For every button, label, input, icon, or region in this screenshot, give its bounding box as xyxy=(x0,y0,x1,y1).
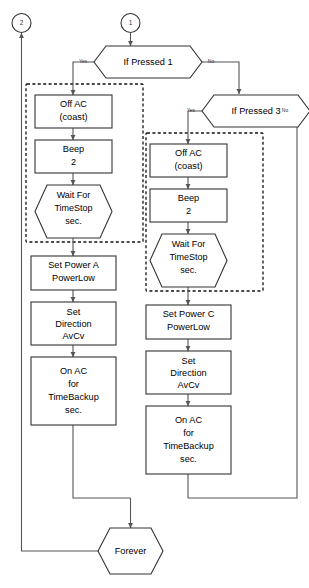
node-forever-label: Forever xyxy=(115,546,147,556)
node-left-off-ac[interactable]: Off AC (coast) xyxy=(35,95,112,128)
node-right-on-ac-line-1: for xyxy=(183,428,194,438)
node-left-set-direction-line-2: AvCv xyxy=(63,331,85,341)
node-left-set-power-line-1: PowerLow xyxy=(52,273,95,283)
node-left-off-ac-line-1: (coast) xyxy=(59,112,87,122)
node-left-on-ac-line-1: for xyxy=(68,379,79,389)
node-right-set-power-line-1: PowerLow xyxy=(167,322,210,332)
node-right-wait-line-2: sec. xyxy=(180,265,197,275)
decision-if-pressed-1-no-label: No xyxy=(208,58,215,64)
node-right-set-direction-line-1: Direction xyxy=(170,368,206,378)
node-left-off-ac-line-0: Off AC xyxy=(60,99,87,109)
decision-if-pressed-3[interactable]: If Pressed 3 xyxy=(202,95,309,127)
connector-out-2-label: 2 xyxy=(20,19,24,26)
node-left-wait[interactable]: Wait For TimeStop sec. xyxy=(35,185,112,238)
node-right-off-ac[interactable]: Off AC (coast) xyxy=(150,144,227,177)
node-left-beep-line-0: Beep xyxy=(63,144,84,154)
node-right-on-ac-line-0: On AC xyxy=(175,415,202,425)
edge-decision3-yes xyxy=(188,111,203,144)
connector-in-1: 1 xyxy=(121,14,140,33)
node-right-set-direction-line-0: Set xyxy=(182,356,196,366)
node-right-on-ac[interactable]: On AC for TimeBackup sec. xyxy=(146,406,231,474)
node-right-on-ac-line-2: TimeBackup xyxy=(163,441,214,451)
node-right-beep[interactable]: Beep 2 xyxy=(150,189,227,222)
node-left-beep[interactable]: Beep 2 xyxy=(35,140,112,173)
node-right-set-power[interactable]: Set Power C PowerLow xyxy=(146,305,231,339)
node-right-off-ac-line-1: (coast) xyxy=(174,161,202,171)
node-left-set-power[interactable]: Set Power A PowerLow xyxy=(31,256,116,290)
node-right-beep-line-0: Beep xyxy=(178,193,199,203)
flowchart-canvas: 1 2 If Pressed 1 Yes No If Presse xyxy=(0,0,309,588)
node-right-wait-line-0: Wait For xyxy=(172,239,206,249)
edge-left-out xyxy=(73,425,131,498)
node-right-wait-line-1: TimeStop xyxy=(169,252,207,262)
node-left-set-direction-line-1: Direction xyxy=(55,319,91,329)
node-left-set-power-line-0: Set Power A xyxy=(48,260,99,270)
node-right-set-direction[interactable]: Set Direction AvCv xyxy=(146,351,231,394)
decision-if-pressed-3-yes-label: Yes xyxy=(187,107,196,113)
node-right-wait[interactable]: Wait For TimeStop sec. xyxy=(150,234,227,287)
decision-if-pressed-3-no-label: No xyxy=(282,107,289,113)
connector-in-1-label: 1 xyxy=(129,19,133,26)
node-left-set-direction-line-0: Set xyxy=(67,307,81,317)
node-right-beep-line-1: 2 xyxy=(186,206,191,216)
node-left-on-ac-line-0: On AC xyxy=(60,366,87,376)
decision-if-pressed-1-label: If Pressed 1 xyxy=(123,57,172,67)
node-right-set-direction-line-2: AvCv xyxy=(178,380,200,390)
node-forever[interactable]: Forever xyxy=(98,528,163,574)
edge-decision1-yes xyxy=(73,62,95,95)
node-left-wait-line-1: TimeStop xyxy=(54,203,92,213)
node-right-set-power-line-0: Set Power C xyxy=(163,309,215,319)
node-left-on-ac-line-2: TimeBackup xyxy=(48,392,99,402)
node-left-wait-line-0: Wait For xyxy=(57,190,91,200)
flowchart-svg: 1 2 If Pressed 1 Yes No If Presse xyxy=(0,0,309,588)
node-left-set-direction[interactable]: Set Direction AvCv xyxy=(31,302,116,345)
decision-if-pressed-1[interactable]: If Pressed 1 xyxy=(94,46,202,78)
node-right-off-ac-line-0: Off AC xyxy=(175,148,202,158)
node-right-on-ac-line-3: sec. xyxy=(180,454,197,464)
node-left-beep-line-1: 2 xyxy=(71,157,76,167)
connector-out-2: 2 xyxy=(12,14,31,33)
decision-if-pressed-1-yes-label: Yes xyxy=(79,58,88,64)
decision-if-pressed-3-label: If Pressed 3 xyxy=(231,106,280,116)
node-left-wait-line-2: sec. xyxy=(65,216,82,226)
node-left-on-ac-line-3: sec. xyxy=(65,405,82,415)
node-left-on-ac[interactable]: On AC for TimeBackup sec. xyxy=(31,357,116,425)
